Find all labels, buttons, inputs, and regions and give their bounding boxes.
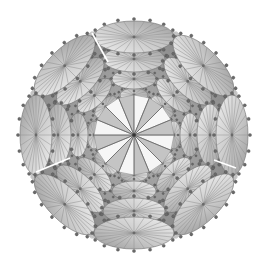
node-dot (51, 117, 54, 120)
node-dot (230, 91, 233, 94)
node-dot (118, 91, 120, 93)
node-dot (71, 155, 73, 157)
node-dot (154, 72, 156, 74)
node-dot (87, 146, 89, 148)
node-dot (70, 148, 73, 151)
node-dot (90, 231, 93, 234)
node-dot (18, 149, 21, 152)
node-dot (112, 196, 114, 198)
node-dot (248, 133, 251, 136)
node-dot (171, 29, 174, 32)
node-dot (103, 219, 106, 222)
node-dot (71, 113, 73, 115)
hub-dot (35, 134, 38, 137)
node-dot (87, 122, 89, 124)
polyhedral-radial-diagram (0, 0, 271, 259)
node-dot (157, 190, 159, 192)
node-dot (132, 17, 135, 20)
node-dot (165, 213, 168, 216)
node-dot (162, 244, 165, 247)
node-dot (133, 90, 135, 92)
node-dot (154, 184, 156, 186)
node-dot (118, 71, 121, 74)
node-dot (237, 172, 240, 175)
node-dot (132, 194, 135, 197)
node-dot (145, 180, 147, 182)
node-dot (165, 206, 168, 209)
node-dot (94, 225, 97, 228)
node-dot (158, 200, 161, 203)
node-dot (118, 177, 120, 179)
node-dot (218, 163, 221, 166)
node-dot (112, 184, 114, 186)
center-point (132, 133, 136, 137)
node-dot (148, 91, 150, 93)
node-dot (107, 200, 110, 203)
node-dot (22, 163, 25, 166)
hub-dot (133, 78, 136, 81)
node-dot (195, 148, 198, 151)
node-dot (183, 113, 185, 115)
node-dot (18, 117, 21, 120)
hub-dot (133, 36, 136, 39)
node-dot (28, 95, 31, 98)
disc (212, 91, 251, 178)
node-dot (112, 72, 114, 74)
node-dot (179, 146, 181, 148)
node-dot (193, 133, 196, 136)
node-dot (189, 110, 191, 112)
node-dot (22, 104, 25, 107)
node-dot (66, 108, 69, 111)
node-dot (83, 113, 85, 115)
node-dot (195, 113, 197, 115)
node-dot (218, 104, 221, 107)
node-dot (90, 119, 92, 121)
hub-dot (231, 134, 234, 137)
node-dot (94, 238, 97, 241)
node-dot (71, 133, 74, 136)
node-dot (47, 104, 50, 107)
node-dot (177, 134, 179, 136)
node-dot (103, 244, 106, 247)
node-dot (132, 53, 135, 56)
node-dot (174, 231, 177, 234)
node-dot (199, 108, 202, 111)
node-dot (103, 48, 106, 51)
node-dot (107, 67, 110, 70)
node-dot (132, 249, 135, 252)
node-dot (51, 149, 54, 152)
node-dot (224, 95, 227, 98)
node-dot (243, 104, 246, 107)
hub-dot (133, 190, 136, 193)
disc (90, 17, 177, 56)
node-dot (243, 163, 246, 166)
node-dot (154, 196, 156, 198)
node-dot (116, 215, 119, 218)
node-dot (147, 71, 150, 74)
node-dot (90, 149, 92, 151)
node-dot (118, 196, 121, 199)
node-dot (121, 180, 123, 182)
node-dot (158, 67, 161, 70)
node-dot (145, 88, 147, 90)
node-dot (237, 95, 240, 98)
node-dot (205, 101, 208, 104)
node-dot (132, 72, 135, 75)
node-dot (147, 196, 150, 199)
node-dot (214, 117, 217, 120)
node-dot (41, 95, 44, 98)
node-dot (171, 238, 174, 241)
hub-dot (133, 210, 136, 213)
node-dot (28, 172, 31, 175)
hub-dot (189, 134, 192, 137)
node-dot (162, 23, 165, 26)
node-dot (162, 219, 165, 222)
node-dot (195, 155, 197, 157)
node-dot (116, 248, 119, 251)
node-dot (60, 101, 63, 104)
node-dot (212, 101, 215, 104)
node-dot (133, 178, 135, 180)
center-fan (94, 95, 174, 175)
node-dot (53, 101, 56, 104)
node-dot (77, 110, 79, 112)
